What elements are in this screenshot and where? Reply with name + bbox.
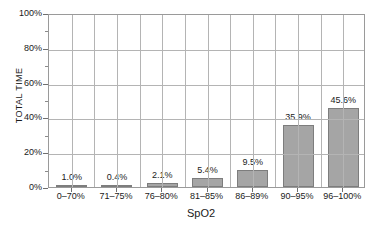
gridline-vertical-center (208, 15, 209, 187)
y-axis-tick-label: 20% (2, 148, 42, 157)
y-axis-tick-mark (43, 153, 48, 154)
gridline-vertical (185, 15, 186, 187)
y-axis-tick-label: 80% (2, 44, 42, 53)
x-axis-tick-label: 90–95% (274, 192, 319, 201)
x-axis-tick-label: 71–75% (93, 192, 138, 201)
y-axis-minor-tick-mark (45, 66, 48, 67)
x-axis-tick-label: 76–80% (139, 192, 184, 201)
gridline-vertical (321, 15, 322, 187)
y-axis-tick-mark (43, 49, 48, 50)
x-axis-tick-label: 0–70% (48, 192, 93, 201)
y-axis-tick-label: 0% (2, 183, 42, 192)
y-axis-tick-mark (43, 188, 48, 189)
gridline-vertical-center (162, 15, 163, 187)
y-axis-minor-tick-mark (45, 31, 48, 32)
gridline-vertical (94, 15, 95, 187)
y-axis-tick-mark (43, 84, 48, 85)
y-axis-tick-label: 100% (2, 9, 42, 18)
y-axis-tick-label: 60% (2, 79, 42, 88)
y-axis-tick-mark (43, 118, 48, 119)
gridline-horizontal (49, 154, 364, 155)
bars-layer: 1.0%0.4%2.1%5.4%9.5%35.9%45.6% (49, 15, 364, 187)
y-axis-tick-label: 40% (2, 113, 42, 122)
x-axis-tick-label: 81–85% (184, 192, 229, 201)
gridline-vertical-center (117, 15, 118, 187)
gridline-vertical (275, 15, 276, 187)
x-axis-title: SpO2 (0, 208, 378, 219)
y-axis-tick-mark (43, 14, 48, 15)
y-axis-minor-tick-mark (45, 136, 48, 137)
y-axis-minor-tick-mark (45, 101, 48, 102)
x-axis-tick-label: 96–100% (320, 192, 365, 201)
x-axis-tick-label: 86–89% (229, 192, 274, 201)
gridline-horizontal (49, 85, 364, 86)
bar-chart: TOTAL TIME 1.0%0.4%2.1%5.4%9.5%35.9%45.6… (0, 0, 378, 233)
gridline-vertical (140, 15, 141, 187)
gridline-vertical-center (253, 15, 254, 187)
plot-area: 1.0%0.4%2.1%5.4%9.5%35.9%45.6% (48, 14, 365, 188)
x-axis-title-text: SpO2 (187, 208, 215, 219)
y-axis-minor-tick-mark (45, 171, 48, 172)
gridline-vertical-center (298, 15, 299, 187)
gridline-vertical-center (343, 15, 344, 187)
gridline-vertical (230, 15, 231, 187)
y-axis-title: TOTAL TIME (15, 36, 24, 156)
gridline-horizontal (49, 119, 364, 120)
gridline-horizontal (49, 50, 364, 51)
gridline-vertical-center (72, 15, 73, 187)
